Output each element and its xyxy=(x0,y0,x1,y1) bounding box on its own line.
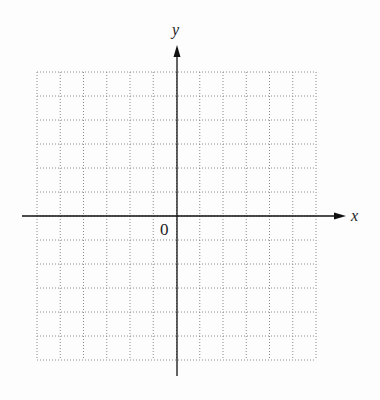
y-axis-label: y xyxy=(170,21,180,39)
coordinate-grid: x y 0 xyxy=(0,0,380,400)
x-axis-label: x xyxy=(350,207,358,224)
x-axis-arrow-icon xyxy=(334,213,346,220)
origin-label: 0 xyxy=(160,220,169,239)
y-axis-arrow-icon xyxy=(174,45,181,57)
